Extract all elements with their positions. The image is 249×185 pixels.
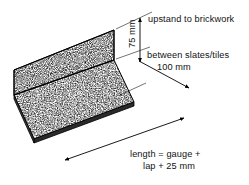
label-length-line2: lap + 25 mm xyxy=(143,161,195,171)
figure-canvas: 75 mm upstand to brickwork between slate… xyxy=(0,0,249,185)
label-upstand-to-brickwork: upstand to brickwork xyxy=(148,14,235,24)
technical-drawing-svg: 75 mm upstand to brickwork between slate… xyxy=(0,0,249,185)
label-between-slates-tiles: between slates/tiles xyxy=(147,50,229,60)
dimension-upstand-75mm: 75 mm xyxy=(127,18,140,62)
dimension-label-75mm: 75 mm xyxy=(127,19,137,48)
flashing-body xyxy=(14,30,134,143)
label-100mm: 100 mm xyxy=(157,62,191,72)
label-length-line1: length = gauge + xyxy=(130,149,201,159)
